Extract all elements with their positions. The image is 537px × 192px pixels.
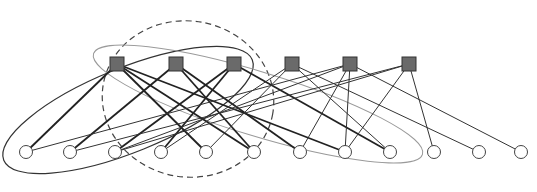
factor-node-f6-square-icon bbox=[402, 57, 416, 71]
variable-node-v9-circle-icon bbox=[384, 146, 397, 159]
edge-f6-v10 bbox=[409, 64, 434, 152]
variable-node-v10-circle-icon bbox=[428, 146, 441, 159]
edge-f6-v2 bbox=[70, 64, 409, 152]
variable-node-v3-circle-icon bbox=[109, 146, 122, 159]
variable-node-v5-circle-icon bbox=[200, 146, 213, 159]
variable-node-v4-circle-icon bbox=[155, 146, 168, 159]
variable-node-v1-circle-icon bbox=[20, 146, 33, 159]
factor-graph-diagram bbox=[0, 0, 537, 192]
variable-node-v7-circle-icon bbox=[294, 146, 307, 159]
factor-node-f3-square-icon bbox=[227, 57, 241, 71]
variable-nodes bbox=[20, 146, 528, 159]
edge-f4-v4 bbox=[161, 64, 292, 152]
factor-node-f5-square-icon bbox=[343, 57, 357, 71]
factor-node-f1-square-icon bbox=[110, 57, 124, 71]
edge-f4-v11 bbox=[292, 64, 479, 152]
edge-f3-v4 bbox=[161, 64, 234, 152]
variable-node-v8-circle-icon bbox=[339, 146, 352, 159]
edge-f5-v8 bbox=[345, 64, 350, 152]
edge-f6-v8 bbox=[345, 64, 409, 152]
edges bbox=[26, 64, 521, 152]
factor-node-f4-square-icon bbox=[285, 57, 299, 71]
variable-node-v11-circle-icon bbox=[473, 146, 486, 159]
variable-node-v2-circle-icon bbox=[64, 146, 77, 159]
edge-f5-v7 bbox=[300, 64, 350, 152]
factor-node-f2-square-icon bbox=[169, 57, 183, 71]
variable-node-v12-circle-icon bbox=[515, 146, 528, 159]
variable-node-v6-circle-icon bbox=[248, 146, 261, 159]
